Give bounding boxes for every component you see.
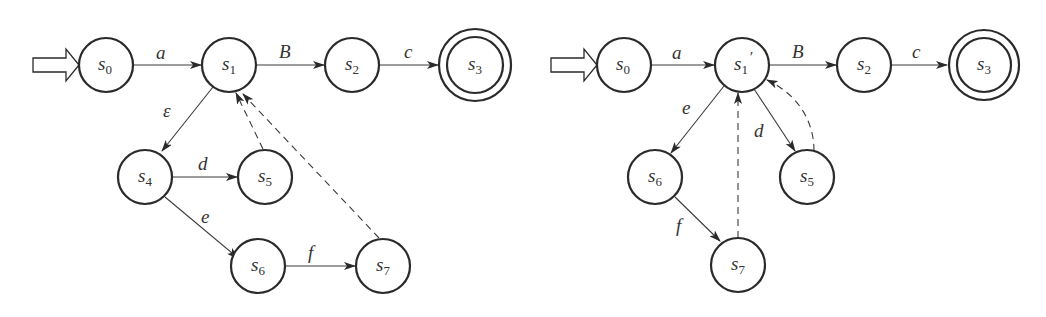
state-s2: s2 (837, 38, 891, 92)
right-automaton: a B c e d f s0 s1 ′ s2 s3 s6 (551, 30, 1019, 292)
left-automaton: a B c ε d e f s0 s1 s2 s3 s4 s (33, 29, 511, 293)
state-s4: s4 (118, 150, 172, 204)
label-f: f (676, 215, 684, 236)
label-a: a (156, 42, 166, 63)
state-s2: s2 (325, 38, 379, 92)
state-s3-accept: s3 (439, 29, 511, 101)
state-s5: s5 (238, 150, 292, 204)
label-epsilon: ε (163, 100, 171, 121)
label-B: B (279, 41, 291, 62)
automata-diagram-canvas: a B c ε d e f s0 s1 s2 s3 s4 s (0, 0, 1046, 317)
label-d: d (754, 120, 764, 141)
state-s6: s6 (628, 150, 682, 204)
edge-s5-s1-dashed (236, 93, 263, 149)
start-arrow-icon (33, 49, 79, 81)
label-B: B (792, 41, 804, 62)
state-s3-accept: s3 (949, 30, 1019, 100)
state-s6: s6 (231, 239, 285, 293)
state-s7: s7 (356, 239, 410, 293)
label-c: c (912, 41, 921, 62)
label-e: e (682, 97, 690, 118)
label-c: c (404, 41, 413, 62)
label-d: d (198, 153, 208, 174)
state-s1-prime: s1 ′ (715, 38, 769, 92)
state-s5: s5 (780, 150, 834, 204)
edge-s6-s7 (675, 197, 720, 241)
label-a: a (672, 42, 682, 63)
edge-s1p-s6 (671, 86, 724, 153)
edge-s5-s1p-dashed-curved (767, 80, 814, 151)
label-e: e (201, 206, 209, 227)
state-s7: s7 (711, 238, 765, 292)
state-s1: s1 (202, 38, 256, 92)
label-f: f (308, 242, 316, 263)
state-s0: s0 (597, 38, 651, 92)
state-s0: s0 (79, 38, 133, 92)
start-arrow-icon (551, 49, 597, 81)
